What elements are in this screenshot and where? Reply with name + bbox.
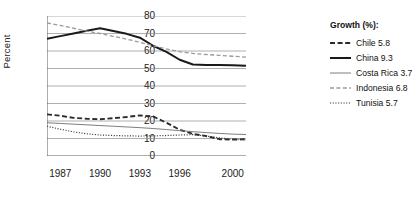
x-tick-label: 1993	[118, 168, 162, 179]
legend-swatch-chile	[330, 38, 351, 48]
legend-label: Tunisia 5.7	[356, 98, 398, 108]
legend-item-chile[interactable]: Chile 5.8	[330, 36, 406, 51]
legend-label: Costa Rica 3.7	[356, 68, 412, 78]
legend-swatch-tunisia	[330, 98, 351, 108]
legend-item-tunisia[interactable]: Tunisia 5.7	[330, 96, 406, 111]
legend-swatch-china	[330, 53, 351, 63]
x-tick-label: 2000	[211, 168, 255, 179]
plot-canvas	[47, 16, 246, 156]
data-series-group	[47, 23, 246, 140]
legend: Growth (%): Chile 5.8China 9.3Costa Rica…	[330, 20, 406, 111]
legend-title: Growth (%):	[330, 20, 406, 30]
legend-swatch-indonesia	[330, 83, 351, 93]
legend-item-costa-rica[interactable]: Costa Rica 3.7	[330, 66, 406, 81]
series-line-china	[47, 28, 246, 65]
series-line-indonesia	[47, 23, 246, 57]
legend-swatch-costa-rica	[330, 68, 351, 78]
x-tick-label: 1996	[158, 168, 202, 179]
y-axis-title: Percent	[1, 12, 12, 92]
legend-label: Chile 5.8	[356, 38, 390, 48]
x-tick-label: 1990	[78, 168, 122, 179]
x-tick-label: 1987	[38, 168, 82, 179]
legend-label: Indonesia 6.8	[356, 83, 408, 93]
legend-items: Chile 5.8China 9.3Costa Rica 3.7Indonesi…	[330, 36, 406, 111]
legend-label: China 9.3	[356, 53, 393, 63]
legend-item-china[interactable]: China 9.3	[330, 51, 406, 66]
gridlines	[47, 16, 246, 139]
legend-item-indonesia[interactable]: Indonesia 6.8	[330, 81, 406, 96]
plot-area	[47, 16, 246, 156]
